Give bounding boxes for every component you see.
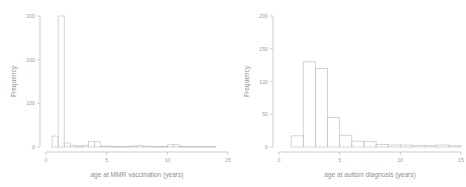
histogram-bar bbox=[400, 145, 412, 147]
histogram-bar bbox=[303, 62, 315, 147]
x-tick-label: 15 bbox=[225, 157, 231, 163]
y-tick-label: 0 bbox=[265, 144, 268, 150]
histogram-bar bbox=[149, 147, 155, 148]
histogram-bar bbox=[143, 146, 149, 147]
histogram-bar bbox=[101, 146, 107, 147]
histogram-bar bbox=[167, 145, 173, 147]
x-axis-title: age at autism diagnosis (years) bbox=[324, 171, 416, 179]
histogram-bar bbox=[179, 147, 185, 148]
y-tick-label: 300 bbox=[26, 13, 35, 19]
histogram-bar bbox=[437, 145, 449, 147]
y-tick-label: 150 bbox=[259, 46, 268, 52]
panel-mmr: 0100200300051015age at MMR vaccination (… bbox=[0, 0, 233, 187]
histogram-bar bbox=[70, 146, 76, 147]
autism-axes bbox=[270, 16, 461, 155]
histogram-bar bbox=[412, 146, 424, 147]
x-tick-label: 10 bbox=[164, 157, 170, 163]
histogram-bar bbox=[364, 142, 376, 147]
histogram-bar bbox=[107, 146, 113, 147]
histogram-bar bbox=[95, 142, 101, 147]
x-tick-label: 0 bbox=[45, 157, 48, 163]
mmr-labels: 0100200300051015age at MMR vaccination (… bbox=[10, 13, 231, 179]
histogram-figure: 0100200300051015age at MMR vaccination (… bbox=[0, 0, 466, 187]
histogram-bar bbox=[137, 146, 143, 147]
histogram-bar bbox=[186, 147, 192, 148]
histogram-bar bbox=[58, 16, 64, 147]
x-tick-label: 5 bbox=[105, 157, 108, 163]
histogram-bar bbox=[210, 147, 216, 148]
mmr-axes bbox=[37, 16, 228, 155]
y-tick-label: 100 bbox=[26, 100, 35, 106]
y-tick-label: 50 bbox=[262, 111, 268, 117]
y-tick-label: 0 bbox=[32, 144, 35, 150]
autism-labels: 050100150200051015age at autism diagnosi… bbox=[243, 13, 464, 179]
y-tick-label: 200 bbox=[26, 57, 35, 63]
histogram-bar bbox=[388, 145, 400, 147]
histogram-bar bbox=[155, 147, 161, 148]
histogram-bar bbox=[376, 144, 388, 147]
histogram-bar bbox=[113, 147, 119, 148]
histogram-bar bbox=[125, 147, 131, 148]
histogram-bar bbox=[198, 147, 204, 148]
histogram-bar bbox=[119, 147, 125, 148]
histogram-bar bbox=[204, 147, 210, 148]
x-tick-label: 10 bbox=[397, 157, 403, 163]
histogram-bar bbox=[425, 146, 437, 147]
histogram-bar bbox=[64, 143, 70, 147]
x-tick-label: 5 bbox=[338, 157, 341, 163]
histogram-bar bbox=[161, 147, 167, 148]
y-tick-label: 200 bbox=[259, 13, 268, 19]
y-tick-label: 100 bbox=[259, 79, 268, 85]
x-tick-label: 15 bbox=[458, 157, 464, 163]
x-axis-title: age at MMR vaccination (years) bbox=[90, 171, 183, 179]
histogram-bar bbox=[340, 135, 352, 147]
x-tick-label: 0 bbox=[278, 157, 281, 163]
autism-bars bbox=[291, 62, 461, 147]
histogram-bar bbox=[192, 147, 198, 148]
histogram-bar bbox=[131, 146, 137, 147]
histogram-bar bbox=[315, 68, 327, 147]
histogram-bar bbox=[352, 141, 364, 147]
autism-plot-svg: 050100150200051015age at autism diagnosi… bbox=[233, 0, 466, 187]
y-axis-title: Frequency bbox=[10, 65, 18, 97]
y-axis-title: Frequency bbox=[243, 65, 251, 97]
histogram-bar bbox=[173, 145, 179, 147]
histogram-bar bbox=[449, 146, 461, 147]
histogram-bar bbox=[291, 136, 303, 147]
histogram-bar bbox=[76, 146, 82, 147]
histogram-bar bbox=[88, 142, 94, 147]
panel-autism: 050100150200051015age at autism diagnosi… bbox=[233, 0, 466, 187]
histogram-bar bbox=[328, 118, 340, 147]
mmr-bars bbox=[52, 16, 216, 147]
histogram-bar bbox=[82, 145, 88, 147]
histogram-bar bbox=[52, 136, 58, 147]
mmr-plot-svg: 0100200300051015age at MMR vaccination (… bbox=[0, 0, 233, 187]
